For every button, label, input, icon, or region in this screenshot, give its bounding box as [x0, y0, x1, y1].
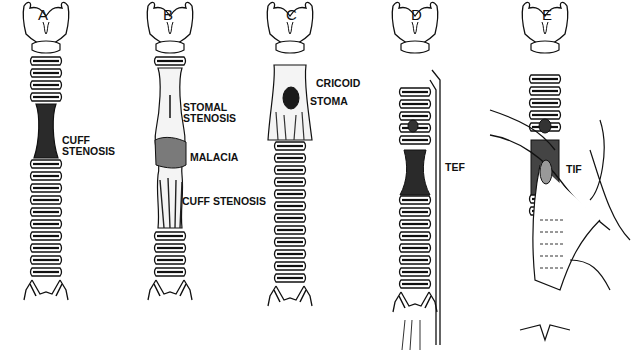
panel-a-letter: A: [38, 6, 48, 23]
label-tef: TEF: [445, 162, 465, 173]
label-cuff-stenosis: CUFF STENOSIS: [182, 196, 266, 207]
panel-c-letter: C: [286, 6, 297, 23]
panel-d-drawing: [392, 2, 440, 350]
panel-b-letter: B: [163, 6, 173, 23]
panel-e-drawing: [490, 2, 630, 340]
label-malacia: MALACIA: [190, 152, 238, 163]
label-cricoid: CRICOID: [316, 78, 360, 89]
label-tif: TIF: [566, 164, 582, 175]
panel-d-letter: D: [411, 6, 422, 23]
label-stoma: STOMA: [310, 96, 348, 107]
panel-c-drawing: [267, 2, 313, 306]
label-stenosis: STENOSIS: [62, 146, 115, 157]
label-stomal-stenosis: STENOSIS: [183, 113, 236, 124]
panel-e-letter: E: [542, 6, 552, 23]
trachea-illustrations: [0, 0, 634, 353]
panel-b-drawing: [147, 2, 193, 300]
